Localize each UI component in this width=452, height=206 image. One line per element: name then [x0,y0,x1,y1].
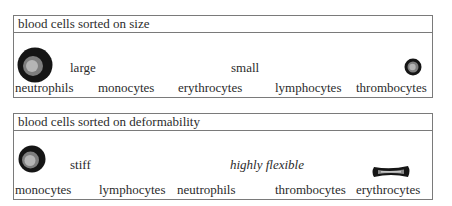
cell-label: monocytes [15,183,71,197]
cell-label: monocytes [98,81,154,95]
scale-large-label: large [70,61,96,75]
deformability-panel-title: blood cells sorted on deformability [14,114,432,131]
stiff-cell-icon [18,145,46,173]
flexible-cell-icon [371,164,411,179]
size-panel-title: blood cells sorted on size [14,16,432,33]
scale-stiff-label: stiff [70,158,91,172]
cell-label: lymphocytes [99,183,165,197]
scale-flexible-label: highly flexible [230,158,304,172]
cell-label: thrombocytes [275,183,346,197]
scale-small-label: small [231,61,259,75]
cell-label: erythrocytes [178,81,242,95]
cell-label: thrombocytes [356,81,427,95]
deformability-panel: blood cells sorted on deformability stif… [13,113,433,200]
cell-label: erythrocytes [356,183,420,197]
small-cell-icon [404,58,422,76]
size-panel: blood cells sorted on size large small n… [13,15,433,98]
large-cell-icon [17,47,53,83]
cell-label: neutrophils [177,183,236,197]
cell-label: neutrophils [15,81,74,95]
cell-label: lymphocytes [275,81,341,95]
